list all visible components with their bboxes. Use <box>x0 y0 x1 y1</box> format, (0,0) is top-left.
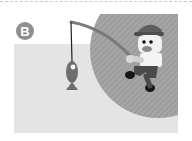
fish-icon <box>66 61 78 90</box>
fishing-illustration <box>0 0 192 141</box>
label-badge: B <box>16 22 34 40</box>
fishing-line <box>71 22 72 62</box>
